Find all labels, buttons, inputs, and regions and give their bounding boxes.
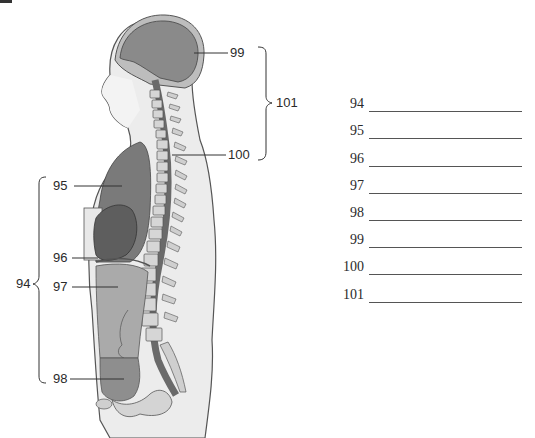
answer-row-95: 95 (340, 123, 530, 143)
answer-number: 95 (350, 123, 364, 139)
callout-95: 95 (53, 179, 67, 193)
answer-row-98: 98 (340, 205, 530, 225)
answer-number: 96 (350, 151, 364, 167)
answer-number: 99 (350, 232, 364, 248)
callout-96: 96 (53, 251, 67, 265)
answer-blank[interactable] (369, 111, 522, 112)
answer-row-100: 100 (340, 259, 530, 279)
answer-blank[interactable] (369, 274, 522, 275)
answer-number: 94 (350, 96, 364, 112)
bracket-label-94: 94 (16, 277, 30, 291)
callout-98: 98 (53, 372, 67, 386)
callout-99: 99 (230, 46, 244, 60)
answer-row-96: 96 (340, 151, 530, 171)
bracket-94 (33, 177, 46, 383)
callout-97: 97 (53, 280, 67, 294)
answer-row-101: 101 (340, 287, 530, 307)
answer-number: 101 (343, 287, 364, 303)
answer-blank[interactable] (369, 302, 522, 303)
answer-blank[interactable] (369, 247, 522, 248)
answer-number: 100 (343, 259, 364, 275)
answer-row-99: 99 (340, 232, 530, 252)
answer-row-97: 97 (340, 178, 530, 198)
callout-100: 100 (228, 148, 250, 162)
answer-blank[interactable] (369, 166, 522, 167)
bracket-101 (258, 47, 272, 160)
answer-number: 97 (350, 178, 364, 194)
answer-row-94: 94 (340, 96, 530, 116)
answer-blank[interactable] (369, 193, 522, 194)
answer-number: 98 (350, 205, 364, 221)
bracket-label-101: 101 (276, 96, 298, 110)
answer-blank[interactable] (369, 138, 522, 139)
answer-blank[interactable] (369, 220, 522, 221)
